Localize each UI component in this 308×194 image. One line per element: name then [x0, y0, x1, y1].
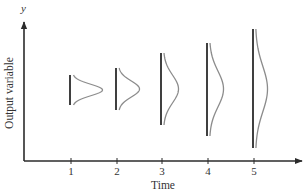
bell-curve [256, 29, 268, 148]
y-axis-label: Output variable [3, 57, 16, 129]
distribution-5: 5 [251, 29, 267, 177]
x-axis-label: Time [151, 179, 175, 191]
x-tick-label: 2 [114, 165, 120, 177]
y-axis-symbol: y [20, 2, 26, 14]
distribution-3: 3 [159, 53, 178, 177]
bell-curve [210, 43, 224, 136]
x-tick-label: 5 [251, 165, 257, 177]
distributions-group: 12345 [68, 29, 267, 177]
bell-curve [119, 68, 139, 110]
bell-curve [74, 75, 103, 105]
bell-curve [164, 53, 178, 125]
x-tick-label: 1 [68, 165, 74, 177]
x-tick-label: 4 [205, 165, 211, 177]
distribution-4: 4 [205, 43, 223, 177]
distribution-over-time-diagram: y Output variable Time 12345 [0, 0, 308, 194]
x-tick-label: 3 [159, 165, 165, 177]
